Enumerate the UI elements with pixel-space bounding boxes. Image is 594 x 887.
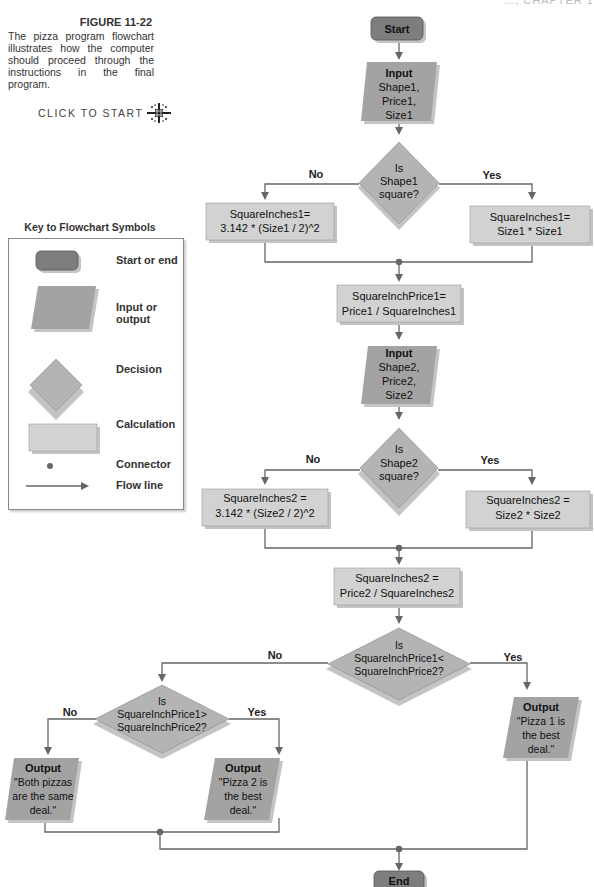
flowchart-element	[396, 846, 402, 852]
decision2: Is Shape2 square?	[358, 428, 440, 516]
flowchart-text: Price2,	[382, 375, 416, 387]
flowchart-element	[157, 829, 163, 835]
d2-no-label: No	[306, 453, 321, 465]
d4-yes-label: Yes	[248, 706, 267, 718]
output-same-deal: Output "Both pizzas are the same deal."	[5, 758, 82, 823]
d3-no-label: No	[268, 649, 283, 661]
flow-lines	[45, 40, 532, 869]
flowchart-text: SquareInches2 =	[355, 572, 438, 584]
flowchart-text: deal."	[528, 743, 555, 755]
decision3: Is SquareInchPrice1< SquareInchPrice2?	[326, 628, 472, 706]
output-pizza2-best: Output "Pizza 2 is the best deal."	[204, 758, 283, 823]
input2-io: Input Shape2, Price2, Size2	[361, 346, 440, 407]
flowchart-text: SquareInches1=	[230, 208, 310, 220]
d2-yes-label: Yes	[481, 454, 500, 466]
end-label: End	[389, 875, 410, 887]
flowchart-text: Output	[225, 762, 261, 774]
flowchart-text: SquareInchPrice1>	[117, 708, 207, 720]
calc2-yes: SquareInches2 = Size2 * Size2	[466, 491, 593, 531]
flowchart-text: SquareInches2 =	[223, 492, 306, 504]
flowchart-text: Is	[158, 695, 166, 707]
calc1-no: SquareInches1= 3.142 * (Size1 / 2)^2	[206, 203, 337, 243]
input1-io: Input Shape1, Price1, Size1	[361, 62, 440, 124]
flowchart-text: are the same	[12, 790, 73, 802]
flowchart-text: the best	[522, 729, 559, 741]
flowchart-text: Shape1,	[379, 81, 420, 93]
flowchart-text: SquareInchPrice2?	[354, 665, 443, 677]
flowchart-text: Price1,	[382, 95, 416, 107]
flowchart-text: 3.142 * (Size2 / 2)^2	[215, 507, 314, 519]
pizza-flowchart: Start Input Shape1, Price1, Size1 Is Sha…	[0, 0, 594, 887]
flowchart-text: the best	[224, 790, 261, 802]
flowchart-element	[396, 545, 402, 551]
flowchart-text: Price1 / SquareInches1	[342, 305, 456, 317]
flowchart-text: Size1	[385, 109, 413, 121]
flowchart-text: SquareInches1=	[490, 211, 570, 223]
decision4: Is SquareInchPrice1> SquareInchPrice2?	[93, 685, 231, 759]
decision1: Is Shape1 square?	[358, 142, 440, 230]
flowchart-text: Size1 * Size1	[497, 225, 562, 237]
d1-no-label: No	[309, 168, 324, 180]
flowchart-text: Is	[395, 443, 404, 455]
flowchart-text: "Pizza 1 is	[517, 715, 566, 727]
flowchart-text: Is	[395, 162, 404, 174]
flowchart-text: 3.142 * (Size1 / 2)^2	[220, 222, 319, 234]
flowchart-text: Output	[523, 701, 559, 713]
flowchart-text: Size2	[385, 389, 413, 401]
end-terminal: End	[374, 871, 427, 887]
flowchart-text: Input	[386, 67, 413, 79]
flowchart-text: Shape2	[380, 457, 418, 469]
flowchart-text: Output	[25, 762, 61, 774]
calc2-no: SquareInches2 = 3.142 * (Size2 / 2)^2	[202, 489, 331, 529]
flowchart-text: "Both pizzas	[14, 776, 72, 788]
flowchart-text: "Pizza 2 is	[219, 776, 268, 788]
flowchart-element	[396, 259, 402, 265]
flowchart-text: square?	[379, 188, 419, 200]
d3-yes-label: Yes	[504, 651, 523, 663]
flowchart-text: Price2 / SquareInches2	[340, 587, 454, 599]
price1-calc: SquareInchPrice1= Price1 / SquareInches1	[337, 285, 464, 325]
flowchart-text: Shape2,	[379, 361, 420, 373]
calc1-yes: SquareInches1= Size1 * Size1	[470, 206, 593, 246]
flowchart-text: Input	[386, 347, 413, 359]
flowchart-text: Is	[395, 639, 403, 651]
flowchart-text: Size2 * Size2	[495, 509, 560, 521]
flowchart-text: SquareInchPrice1=	[352, 290, 446, 302]
flowchart-text: deal."	[30, 804, 57, 816]
flowchart-text: SquareInchPrice2?	[117, 721, 206, 733]
d1-yes-label: Yes	[483, 169, 502, 181]
flowchart-text: SquareInchPrice1<	[354, 652, 444, 664]
start-label: Start	[384, 23, 409, 35]
d4-no-label: No	[63, 706, 78, 718]
price2-calc: SquareInches2 = Price2 / SquareInches2	[334, 568, 463, 608]
flowchart-text: Shape1	[380, 175, 418, 187]
flowchart-text: square?	[379, 470, 419, 482]
flowchart-text: SquareInches2 =	[486, 494, 569, 506]
output-pizza1-best: Output "Pizza 1 is the best deal."	[503, 697, 582, 761]
flowchart-text: deal."	[230, 804, 257, 816]
start-terminal: Start	[371, 17, 426, 43]
